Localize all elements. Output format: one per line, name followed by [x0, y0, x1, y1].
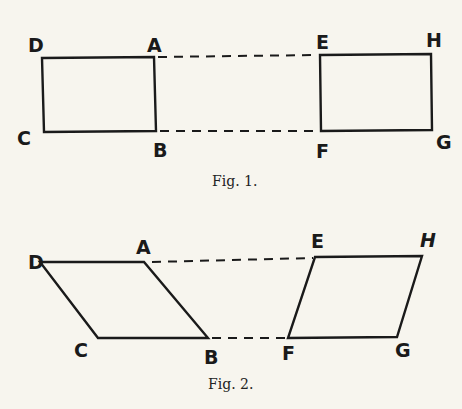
label-e1: E: [316, 31, 329, 53]
label-f1: F: [316, 140, 329, 162]
caption-fig-1: Fig. 1.: [212, 173, 257, 189]
label-b2: B: [204, 346, 218, 368]
parallelogram-abcd: [40, 262, 208, 338]
label-e2: E: [311, 230, 324, 252]
label-a2: A: [136, 236, 151, 258]
dashed-line-ae: [158, 55, 316, 57]
label-c2: C: [74, 339, 88, 361]
figure-1: D A C B E H F G Fig. 1.: [17, 29, 452, 189]
label-d1: D: [28, 34, 44, 56]
label-h1: H: [426, 29, 442, 51]
dashed-line-ae: [152, 258, 313, 262]
parallelogram-efgh: [288, 256, 422, 338]
label-g1: G: [436, 131, 452, 153]
rectangle-efgh: [320, 54, 432, 131]
label-b1: B: [153, 139, 167, 161]
label-a1: A: [147, 34, 162, 56]
label-c1: C: [17, 127, 31, 149]
diagram: D A C B E H F G Fig. 1. D A C B E H F G …: [0, 0, 462, 409]
label-d2: D: [28, 251, 44, 273]
rectangle-abcd: [42, 57, 156, 132]
caption-fig-2: Fig. 2.: [208, 376, 253, 392]
label-h2: H: [420, 229, 436, 251]
label-f2: F: [282, 342, 295, 364]
label-g2: G: [395, 339, 411, 361]
figure-2: D A C B E H F G Fig. 2.: [28, 229, 436, 392]
